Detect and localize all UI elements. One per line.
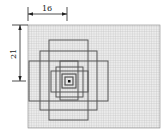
center-marker — [68, 80, 71, 83]
vertical-dimension-label: 21 — [9, 49, 18, 59]
horizontal-dimension-label: 16 — [42, 4, 52, 13]
diagram-canvas: 16 21 — [0, 0, 165, 135]
grid-mesh-area — [28, 25, 160, 128]
